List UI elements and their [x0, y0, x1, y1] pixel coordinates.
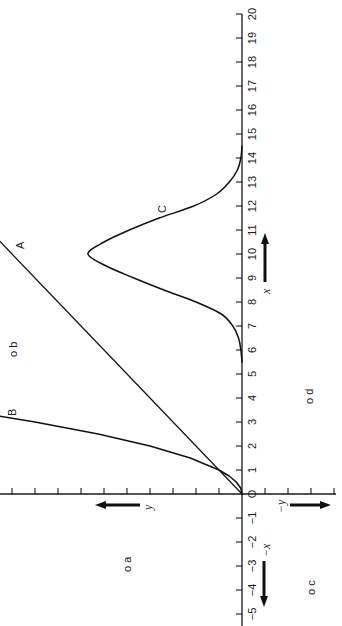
x-tick-label: 8	[246, 299, 258, 305]
x-tick-label: 18	[246, 56, 258, 68]
point-d-label: o d	[303, 389, 315, 404]
arrow-y-label: y	[141, 504, 155, 511]
curve-b-line	[0, 415, 242, 494]
x-tick-label: 10	[246, 248, 258, 260]
neg-y-direction-arrow: −y	[274, 499, 331, 513]
curve-b-label: B	[6, 409, 18, 416]
x-tick-label: 12	[246, 200, 258, 212]
x-tick-label: O	[246, 489, 258, 498]
x-tick-label: 7	[246, 323, 258, 329]
arrow-neg-x-label: −x	[259, 543, 273, 557]
arrow-neg-y-label: −y	[274, 499, 288, 513]
x-tick-label: 1	[246, 467, 258, 473]
neg-x-direction-arrow: −x	[259, 543, 273, 607]
curve-c-label: C	[156, 205, 168, 213]
x-tick-label: 3	[246, 419, 258, 425]
x-tick-label: 11	[246, 224, 258, 235]
x-tick-label: 17	[246, 80, 258, 92]
x-tick-label: −5	[246, 608, 258, 621]
x-tick-label: 16	[246, 104, 258, 116]
x-tick-label: −1	[246, 512, 258, 525]
curve-a-label: A	[14, 241, 26, 249]
point-a-label: o a	[121, 556, 133, 572]
rotated-function-plot: −5−4−3−2−1O12345678910111213141516171819…	[0, 0, 342, 626]
arrow-left-icon	[95, 501, 106, 509]
x-tick-label: −3	[246, 560, 258, 573]
x-tick-label: 14	[246, 152, 258, 164]
point-c-label: o c	[305, 580, 317, 595]
x-tick-label: −4	[246, 584, 258, 597]
x-tick-label: 9	[246, 275, 258, 281]
x-tick-label: 6	[246, 347, 258, 353]
x-tick-label: 20	[246, 8, 258, 20]
arrow-right-icon	[320, 501, 331, 509]
arrow-up-icon	[261, 233, 269, 244]
x-tick-label: 13	[246, 176, 258, 188]
x-direction-arrow: x	[259, 233, 273, 295]
axes: −5−4−3−2−1O12345678910111213141516171819…	[0, 8, 336, 626]
curves	[0, 146, 242, 494]
arrow-down-icon	[260, 596, 268, 607]
x-tick-label: 2	[246, 443, 258, 449]
arrow-x-label: x	[259, 288, 273, 295]
y-axis-ticks	[12, 488, 334, 494]
x-tick-label: 4	[246, 395, 258, 401]
x-tick-label: 15	[246, 128, 258, 140]
y-direction-arrow: y	[95, 501, 155, 511]
x-tick-label: −2	[246, 536, 258, 549]
x-tick-label: 19	[246, 32, 258, 44]
curve-c-line	[88, 146, 242, 362]
x-tick-label: 5	[246, 371, 258, 377]
point-b-label: o b	[7, 342, 19, 357]
x-axis-ticks: −5−4−3−2−1O12345678910111213141516171819…	[236, 8, 258, 620]
curve-a-line	[0, 240, 242, 494]
